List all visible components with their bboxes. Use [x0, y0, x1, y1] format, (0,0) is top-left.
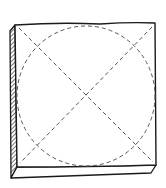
slab-sketch — [0, 0, 166, 188]
